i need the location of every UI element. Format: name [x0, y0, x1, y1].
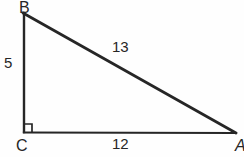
side-ca-line [24, 133, 236, 134]
side-ba-line-hypotenuse [23, 13, 236, 133]
vertex-label-b: B [19, 0, 30, 16]
side-length-label-ca: 12 [112, 136, 129, 151]
side-length-label-ba: 13 [112, 39, 129, 54]
side-length-label-bc: 5 [4, 55, 12, 70]
vertex-label-a: A [235, 138, 244, 154]
triangle-drawing [0, 0, 244, 157]
vertex-label-c: C [16, 138, 28, 154]
right-triangle-figure: B C A 5 13 12 [0, 0, 244, 157]
